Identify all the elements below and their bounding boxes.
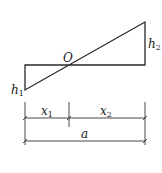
triangle-dimension-diagram: O h1 h2 x1 x2 a — [0, 0, 162, 173]
right-triangle — [69, 22, 145, 65]
x1-label: x1 — [41, 104, 53, 119]
a-label: a — [81, 127, 88, 141]
x2-label: x2 — [100, 104, 112, 119]
origin-label: O — [63, 51, 73, 65]
h2-label: h2 — [148, 37, 161, 52]
left-triangle — [25, 65, 69, 90]
h1-label: h1 — [11, 83, 24, 98]
